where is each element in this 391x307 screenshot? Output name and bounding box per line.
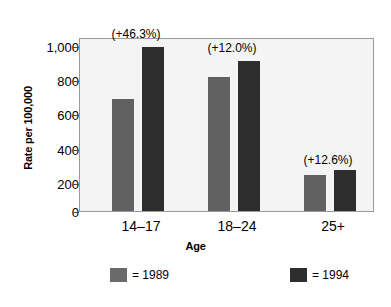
bar-1994-14-17 <box>142 47 164 211</box>
bar-1989-25-plus <box>304 175 326 211</box>
x-tick-label-18-24: 18–24 <box>182 218 292 234</box>
legend-swatch-1989-icon <box>110 268 127 282</box>
legend-swatch-1994-icon <box>290 268 307 282</box>
bar-1989-14-17 <box>112 99 134 211</box>
legend-label-1989: = 1989 <box>132 268 169 282</box>
legend-label-1994: = 1994 <box>312 268 349 282</box>
bar-group-14-17: (+46.3%) <box>90 39 190 211</box>
group-annotation: (+12.0%) <box>182 41 282 55</box>
legend-item-1989: = 1989 <box>110 268 169 282</box>
x-axis-title: Age <box>0 240 391 252</box>
bar-chart-figure: Rate per 100,000 1,000 800 600 400 200 0… <box>0 0 391 307</box>
plot-area: (+46.3%) (+12.0%) (+12.6%) <box>79 38 374 212</box>
x-tick-label-14-17: 14–17 <box>86 218 196 234</box>
bar-1994-25-plus <box>334 170 356 211</box>
y-axis-ticks: 1,000 800 600 400 200 0 <box>25 0 79 307</box>
bar-1994-18-24 <box>238 61 260 211</box>
group-annotation: (+12.6%) <box>278 153 378 167</box>
group-annotation: (+46.3%) <box>86 27 186 41</box>
bar-1989-18-24 <box>208 77 230 211</box>
y-tick-mark <box>73 212 79 213</box>
x-tick-label-25-plus: 25+ <box>278 218 388 234</box>
bar-group-18-24: (+12.0%) <box>186 39 286 211</box>
bar-group-25-plus: (+12.6%) <box>282 39 382 211</box>
legend-item-1994: = 1994 <box>290 268 349 282</box>
